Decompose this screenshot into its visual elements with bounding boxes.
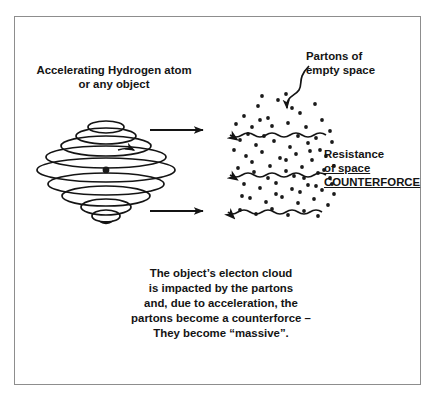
parton-dot bbox=[286, 213, 290, 217]
parton-dot bbox=[268, 164, 272, 168]
caption-line1: The object’s electon cloud bbox=[150, 267, 293, 279]
parton-dot bbox=[326, 203, 330, 207]
partons-label: Partons of empty space bbox=[306, 50, 412, 78]
parton-dot bbox=[236, 166, 240, 170]
parton-dot bbox=[294, 152, 298, 156]
parton-dot bbox=[240, 194, 244, 198]
caption-line2: is impacted by the partons bbox=[149, 282, 293, 294]
parton-dot bbox=[306, 141, 310, 145]
parton-dot bbox=[242, 182, 246, 186]
counterforce-wave-middle bbox=[230, 173, 326, 177]
parton-dot bbox=[274, 192, 278, 196]
parton-dot bbox=[290, 106, 294, 110]
parton-dot bbox=[310, 158, 314, 162]
parton-dot bbox=[272, 139, 276, 143]
counterforce-wave-bottom bbox=[228, 210, 322, 214]
parton-dot bbox=[248, 196, 252, 200]
parton-dot bbox=[256, 104, 260, 108]
resistance-label-line1: Resistance bbox=[324, 148, 384, 160]
parton-dot bbox=[260, 150, 264, 154]
parton-dot bbox=[290, 187, 294, 191]
parton-dot bbox=[250, 160, 254, 164]
partons-label-line1: Partons of bbox=[306, 50, 362, 62]
parton-dot bbox=[308, 149, 312, 153]
parton-dot bbox=[320, 118, 324, 122]
caption-line4: partons become a counterforce – bbox=[131, 312, 311, 324]
parton-dot bbox=[314, 136, 318, 140]
parton-dot-field bbox=[232, 92, 336, 218]
parton-dot bbox=[260, 94, 264, 98]
parton-dot bbox=[232, 148, 236, 152]
parton-dot bbox=[264, 200, 268, 204]
parton-dot bbox=[234, 122, 238, 126]
counterforce-wave-top bbox=[230, 133, 326, 137]
parton-dot bbox=[300, 165, 304, 169]
parton-dot bbox=[328, 129, 332, 133]
parton-dot bbox=[314, 184, 318, 188]
parton-dot bbox=[296, 201, 300, 205]
parton-dot bbox=[296, 134, 300, 138]
parton-dot bbox=[330, 140, 334, 144]
parton-dot bbox=[238, 138, 242, 142]
parton-dot bbox=[258, 186, 262, 190]
partons-label-line2: empty space bbox=[306, 64, 375, 76]
parton-dot bbox=[258, 118, 262, 122]
parton-dot bbox=[266, 116, 270, 120]
parton-dot bbox=[304, 125, 308, 129]
parton-dot bbox=[318, 148, 322, 152]
parton-dot bbox=[266, 176, 270, 180]
parton-dot bbox=[250, 125, 254, 129]
parton-dot bbox=[312, 197, 316, 201]
parton-dot bbox=[254, 143, 258, 147]
parton-dot bbox=[292, 174, 296, 178]
motion-arrows-group bbox=[150, 130, 203, 211]
parton-dot bbox=[306, 183, 310, 187]
parton-dot bbox=[278, 156, 282, 160]
parton-dot bbox=[298, 190, 302, 194]
parton-dot bbox=[244, 154, 248, 158]
parton-dot bbox=[280, 195, 284, 199]
caption-line5: They become “massive”. bbox=[153, 327, 289, 339]
parton-dot bbox=[288, 145, 292, 149]
parton-dot bbox=[274, 181, 278, 185]
parton-dot bbox=[276, 98, 280, 102]
parton-dot bbox=[270, 124, 274, 128]
parton-dot bbox=[284, 169, 288, 173]
counterforce-label: COUNTERFORCE bbox=[324, 176, 420, 190]
parton-dot bbox=[284, 92, 288, 96]
parton-dot bbox=[284, 158, 288, 162]
nucleus-dot bbox=[103, 167, 110, 174]
parton-dot bbox=[286, 121, 290, 125]
figure-caption: The object’s electon cloud is impacted b… bbox=[96, 266, 346, 341]
parton-dot bbox=[316, 214, 320, 218]
diagram-canvas: Accelerating Hydrogen atom or any object… bbox=[0, 0, 441, 404]
object-label-line2: or any object bbox=[79, 78, 150, 90]
object-label-line1: Accelerating Hydrogen atom bbox=[36, 64, 191, 76]
parton-dot bbox=[298, 111, 302, 115]
parton-dot bbox=[302, 209, 306, 213]
parton-dot bbox=[313, 102, 317, 106]
resistance-counterforce-label: Resistance of space COUNTERFORCE bbox=[324, 148, 436, 190]
counterforce-arrows-group bbox=[228, 133, 326, 214]
resistance-label-line2: of space bbox=[324, 162, 370, 176]
parton-dot bbox=[242, 114, 246, 118]
object-label: Accelerating Hydrogen atom or any object bbox=[22, 64, 206, 92]
caption-line3: and, due to acceleration, the bbox=[144, 297, 298, 309]
parton-dot bbox=[332, 192, 336, 196]
